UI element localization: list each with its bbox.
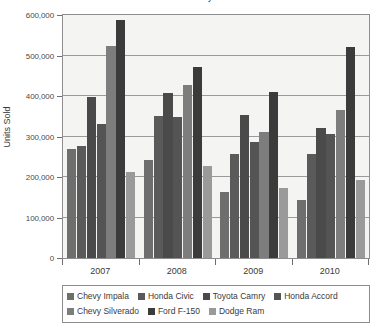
x-tick-label-2007: 2007 (90, 266, 110, 276)
chart-title: Vehicle Sales by Model (0, 0, 386, 7)
bar (307, 154, 316, 258)
legend-label: Chevy Silverado (77, 307, 139, 316)
bar (250, 142, 259, 258)
legend-swatch-icon (67, 293, 74, 300)
legend-item[interactable]: Chevy Impala (67, 292, 129, 301)
legend-item[interactable]: Honda Civic (138, 292, 194, 301)
legend-item[interactable]: Dodge Ram (209, 307, 264, 316)
bar-series-layer (63, 15, 369, 258)
bar (116, 20, 125, 258)
legend-row-primary: Chevy ImpalaHonda CivicToyota CamryHonda… (67, 290, 365, 303)
bar-chart: Vehicle Sales by Model Units Sold 0100,0… (0, 0, 386, 332)
bar (183, 85, 192, 258)
bar (106, 46, 115, 258)
y-tick-label: 600,000 (26, 11, 54, 20)
bar (154, 116, 163, 258)
bar (126, 172, 135, 258)
bar (230, 154, 239, 258)
bar (336, 110, 345, 258)
bar (316, 128, 325, 258)
legend-label: Honda Accord (284, 292, 337, 301)
legend-row-secondary: Chevy SilveradoFord F-150Dodge Ram (67, 305, 365, 318)
bar (77, 146, 86, 258)
y-tick-label: 100,000 (26, 213, 54, 222)
legend-label: Ford F-150 (158, 307, 200, 316)
bar (203, 166, 212, 258)
legend-swatch-icon (138, 293, 145, 300)
legend-label: Chevy Impala (77, 292, 129, 301)
bar (67, 149, 76, 258)
bar (279, 188, 288, 258)
bar (220, 192, 229, 258)
bar-group-2010 (293, 15, 370, 258)
chart-title-text: Vehicle Sales by Model (146, 0, 239, 1)
bar-group-2008 (140, 15, 217, 258)
y-axis-title: Units Sold (2, 87, 12, 167)
x-tick-mark (62, 259, 63, 265)
bar-group-2009 (216, 15, 293, 258)
bar (163, 93, 172, 258)
bar (144, 160, 153, 258)
legend-label: Honda Civic (148, 292, 194, 301)
bar (87, 97, 96, 258)
legend-swatch-icon (67, 308, 74, 315)
bar (240, 115, 249, 258)
x-tick-mark (368, 259, 369, 265)
plot-area (62, 14, 370, 259)
x-tick-label-2010: 2010 (320, 266, 340, 276)
bar (193, 67, 202, 258)
legend-item[interactable]: Ford F-150 (148, 307, 200, 316)
legend-label: Dodge Ram (219, 307, 264, 316)
bar (326, 134, 335, 258)
bar (346, 47, 355, 258)
x-tick-mark (215, 259, 216, 265)
y-tick-label: 200,000 (26, 173, 54, 182)
legend-item[interactable]: Toyota Camry (203, 292, 265, 301)
chart-legend: Chevy ImpalaHonda CivicToyota CamryHonda… (62, 285, 370, 323)
x-axis: 2007200820092010 (62, 259, 370, 281)
bar (259, 132, 268, 258)
bar-group-2007 (63, 15, 140, 258)
x-tick-label-2009: 2009 (243, 266, 263, 276)
bar (97, 124, 106, 258)
legend-swatch-icon (209, 308, 216, 315)
x-tick-mark (292, 259, 293, 265)
legend-label: Toyota Camry (213, 292, 265, 301)
legend-swatch-icon (274, 293, 281, 300)
y-tick-label: 300,000 (26, 132, 54, 141)
y-tick-label: 500,000 (26, 51, 54, 60)
legend-item[interactable]: Chevy Silverado (67, 307, 139, 316)
bar (269, 92, 278, 258)
y-tick-label: 0 (50, 254, 54, 263)
y-tick-label: 400,000 (26, 92, 54, 101)
legend-item[interactable]: Honda Accord (274, 292, 337, 301)
legend-swatch-icon (148, 308, 155, 315)
x-tick-label-2008: 2008 (167, 266, 187, 276)
y-axis: Units Sold 0100,000200,000300,000400,000… (0, 14, 62, 259)
bar (297, 200, 306, 258)
bar (356, 180, 365, 258)
legend-swatch-icon (203, 293, 210, 300)
x-tick-mark (139, 259, 140, 265)
bar (173, 117, 182, 258)
